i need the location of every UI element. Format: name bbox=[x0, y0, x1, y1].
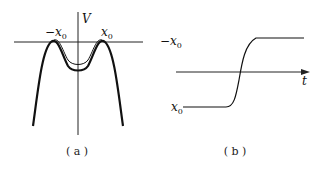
minus-x0-label: −x0 bbox=[45, 25, 67, 41]
x0-label: x0 bbox=[101, 25, 113, 41]
caption-a: ( a ) bbox=[66, 145, 88, 158]
caption-b: ( b ) bbox=[224, 145, 247, 158]
x0-level-label: x0 bbox=[171, 100, 183, 116]
minus-x0-level-label: −x0 bbox=[160, 34, 182, 50]
figure: V −x0 x0 ( a ) −x0 x0 t ( b ) bbox=[0, 0, 323, 169]
v-axis-label: V bbox=[82, 12, 92, 26]
panel-a: V −x0 x0 ( a ) bbox=[14, 12, 143, 158]
panel-b: −x0 x0 t ( b ) bbox=[160, 34, 310, 158]
t-axis-label: t bbox=[302, 74, 307, 88]
